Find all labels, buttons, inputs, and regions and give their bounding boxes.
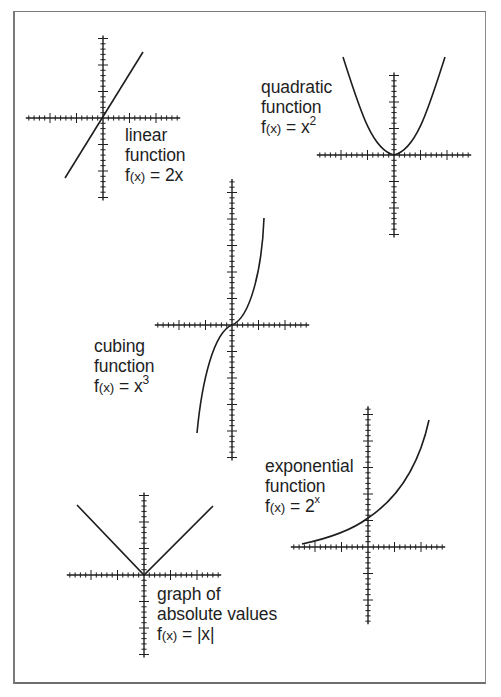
label-name-line-1: cubing [94, 336, 155, 356]
label-name-line-2: function [261, 97, 332, 117]
label-formula: f(x) = 2x [125, 165, 186, 187]
label-name-line-2: function [265, 476, 353, 496]
label-name-line-1: exponential [265, 456, 353, 476]
graph-cubing [155, 179, 309, 461]
label-absolute: graph of absolute values f(x) = |x| [157, 584, 277, 646]
label-cubing: cubing function f(x) = x3 [94, 336, 155, 398]
label-name-line-2: absolute values [157, 604, 277, 624]
label-formula: f(x) = 2x [265, 496, 353, 518]
label-quadratic: quadratic function f(x) = x2 [261, 77, 332, 139]
label-name-line-1: linear [125, 125, 186, 145]
label-name-line-2: function [125, 145, 186, 165]
label-formula: f(x) = x2 [261, 117, 332, 139]
label-name-line-1: graph of [157, 584, 277, 604]
label-exponential: exponential function f(x) = 2x [265, 456, 353, 518]
label-linear: linear function f(x) = 2x [125, 125, 186, 187]
cubing-axes [155, 179, 309, 461]
label-formula: f(x) = |x| [157, 624, 277, 646]
graph-quadratic [317, 57, 471, 238]
label-name-line-1: quadratic [261, 77, 332, 97]
label-formula: f(x) = x3 [94, 376, 155, 398]
